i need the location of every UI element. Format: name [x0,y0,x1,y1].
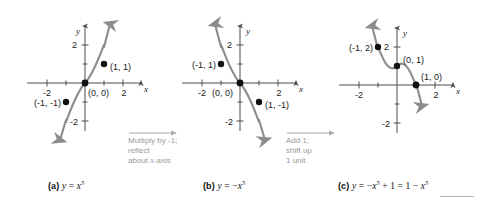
caption-a-tag: (a) [48,181,59,191]
panel-c-x-axis: -2 2 x [339,82,460,101]
caption-a: (a) y = x5 [48,179,84,191]
panel-c-point-1-0 [413,82,420,89]
annotation-a-to-b-line1: Multiply by -1; [128,136,177,146]
figure-container: -2 2 x 2 -2 y (1, 1) (0, 0) [0,0,481,205]
caption-c-tag: (c) [338,181,349,191]
panel-c-point-label--1-2: (-1, 2) [349,43,373,53]
caption-c: (c) y = −x5 + 1 = 1 − x5 [338,179,428,191]
panel-c-ytick--2: -2 [382,119,390,129]
panel-c-y-axis-label: y [402,28,407,38]
panel-c-points: (-1, 2) (0, 1) (1, 0) [349,43,442,88]
panel-c-ytick-2: 2 [384,42,389,52]
annotation-b-to-c-line2: shift up [286,146,312,156]
panel-c-point-label-0-1: (0, 1) [403,55,424,65]
panel-c-xtick--2: -2 [355,90,363,100]
panel-c-point--1-2 [375,44,381,50]
panel-c-x-axis-label: x [455,86,460,96]
panel-c-point-label-1-0: (1, 0) [421,72,442,82]
panel-c-y-axis: 2 -2 y [382,28,407,133]
caption-c-equation: y = −x5 + 1 = 1 − x5 [352,181,429,191]
annotation-b-to-c-line1: Add 1; [286,136,312,146]
annotation-b-to-c-line3: 1 unit [286,156,312,166]
caption-a-equation: y = x5 [62,181,84,191]
panel-c-xtick-2: 2 [433,90,438,100]
panel-c-point-0-1 [394,63,400,69]
caption-b-tag: (b) [203,181,215,191]
annotation-a-to-b-line3: about x-axis [128,156,177,166]
caption-b-equation: y = −x5 [217,181,245,191]
footer-rule [440,196,474,197]
annotation-b-to-c: Add 1; shift up 1 unit [286,136,312,166]
caption-b: (b) y = −x5 [203,179,245,191]
annotation-a-to-b-line3-post: -axis [154,156,171,165]
panel-c-graph: -2 2 x 2 -2 y (-1, 2) (0, 1) (1, 0) [0,0,481,205]
annotation-a-to-b-line2: reflect [128,146,177,156]
annotation-a-to-b-line3-pre: about [128,156,150,165]
annotation-a-to-b: Multiply by -1; reflect about x-axis [128,136,177,166]
